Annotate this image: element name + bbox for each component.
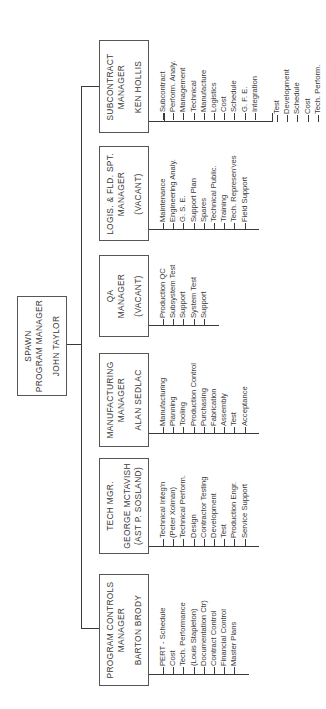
duty-item: Perform. Analy.	[168, 61, 178, 112]
dept-title-2: MANAGER	[116, 153, 127, 235]
duty-item: Cost	[219, 61, 229, 112]
duty-item: Logistics	[209, 61, 219, 112]
duty-tick	[194, 667, 195, 674]
duty-tick	[204, 539, 205, 546]
duty-item: G. S. E.	[178, 156, 188, 222]
duty-item: Test	[229, 363, 239, 426]
duty-item: Technical Perform.	[178, 475, 188, 538]
qa-label: QA MANAGER (VACANT)	[105, 274, 144, 318]
program-controls-duty-list: PERT - Schedule Cost Tech. Performance (…	[158, 600, 240, 666]
duty-item: Service Support	[240, 475, 250, 538]
program-manager-label: SPAWN PROGRAM MANAGER JOHN TAYLOR	[23, 300, 62, 392]
duty-tick	[183, 319, 184, 326]
duty-tick	[224, 113, 225, 120]
duty-tick	[163, 113, 164, 120]
duty-item: Tech. Performance	[178, 600, 188, 666]
duty-tick	[287, 115, 288, 122]
subcontract-duty-list-2: Test Development Schedule Cost Tech. Per…	[272, 65, 323, 114]
duty-item: (Louis Stapleton)	[189, 600, 199, 666]
dept-title: PROGRAM CONTROLS	[105, 582, 116, 679]
technical-label: TECH MGR. GEORGE MCTAVISH (AST P. SOSLAN…	[105, 463, 144, 549]
duty-item: Planning	[168, 363, 178, 426]
duty-item: Test	[272, 65, 282, 114]
duty-item: Financial Control	[219, 600, 229, 666]
duty-tick	[245, 539, 246, 546]
technical-manager-box: TECH MGR. GEORGE MCTAVISH (AST P. SOSLAN…	[99, 458, 149, 554]
duty-tick	[255, 113, 256, 120]
logistics-manager-box: LOGIS. & FLD. SPT. MANAGER (VACANT)	[99, 146, 149, 241]
subcontract-label: SUBCONTRACT MANAGER KEN HOLLIS	[105, 53, 144, 120]
spine-line	[81, 86, 82, 629]
duty-tick	[163, 667, 164, 674]
duty-item: Management	[178, 61, 188, 112]
duty-tick	[224, 539, 225, 546]
program-manager-title: PROGRAM MANAGER	[34, 300, 45, 392]
program-name: SPAWN	[23, 300, 34, 392]
dept-title: SUBCONTRACT	[105, 53, 116, 120]
duty-tick	[224, 427, 225, 434]
dept-title: TECH MGR.	[105, 463, 116, 549]
duty-item: Documentation Ctr)	[199, 600, 209, 666]
duty-item: Technical Integ'n	[158, 475, 168, 538]
duty-tick	[173, 667, 174, 674]
duty-item: Support	[199, 265, 209, 318]
connector-program-manager	[66, 344, 82, 345]
duty-item: Contract Control	[209, 600, 219, 666]
duty-item: Development	[209, 475, 219, 538]
duty-tick	[173, 113, 174, 120]
duty-tick	[183, 539, 184, 546]
dept-title: MANUFACTURING	[105, 362, 116, 439]
duty-item: Schedule	[229, 61, 239, 112]
duty-tick	[173, 319, 174, 326]
duty-tick	[173, 223, 174, 230]
connector-subcontract	[81, 86, 99, 87]
duty-tick	[214, 539, 215, 546]
duty-item: Development	[282, 65, 292, 114]
manufacturing-manager-box: MANUFACTURING MANAGER ALAN SEDLAC	[99, 353, 149, 447]
duty-item: Subcontract	[158, 61, 168, 112]
logistics-label: LOGIS. & FLD. SPT. MANAGER (VACANT)	[105, 153, 144, 235]
duty-tick	[204, 113, 205, 120]
duty-tick	[234, 113, 235, 120]
duty-item: Tech. Perform.	[313, 65, 323, 114]
duty-tick	[204, 223, 205, 230]
subcontract-duty-list: Subcontract Perform. Analy. Management T…	[158, 61, 260, 112]
duty-item: Schedule	[292, 65, 302, 114]
duty-tick	[308, 115, 309, 122]
duty-tick	[183, 427, 184, 434]
duty-tick	[272, 113, 273, 121]
duty-item: Acceptance	[240, 363, 250, 426]
duty-tick	[204, 319, 205, 326]
dept-title-2: MANAGER	[116, 362, 127, 439]
duty-item: Production QC	[158, 265, 168, 318]
duty-bracket-line	[149, 121, 273, 122]
duty-tick	[234, 427, 235, 434]
duty-tick	[194, 427, 195, 434]
duty-tick	[163, 539, 164, 546]
qa-manager-box: QA MANAGER (VACANT)	[99, 255, 149, 337]
duty-item: Maintenance	[158, 156, 168, 222]
dept-title-2: MANAGER	[116, 582, 127, 679]
duty-item: Production Engr.	[229, 475, 239, 538]
duty-bracket-line	[149, 674, 249, 675]
duty-tick	[163, 427, 164, 434]
duty-item: Support Plan	[189, 156, 199, 222]
connector-program-controls	[81, 628, 99, 629]
duty-tick	[234, 223, 235, 230]
dept-manager-name: BARTON BRODY	[133, 582, 144, 679]
duty-tick	[164, 113, 165, 121]
duty-tick	[277, 115, 278, 122]
duty-tick	[194, 319, 195, 326]
duty-item: (Peter Xolman)	[168, 475, 178, 538]
duty-tick	[245, 113, 246, 120]
duty-tick	[214, 113, 215, 120]
duty-tick	[183, 223, 184, 230]
technical-duty-list: Technical Integ'n (Peter Xolman) Technic…	[158, 475, 250, 538]
duty-tick	[214, 667, 215, 674]
duty-tick	[245, 223, 246, 230]
dept-manager-name: KEN HOLLIS	[133, 53, 144, 120]
duty-item: Tech. Represen'ves	[229, 156, 239, 222]
duty-item: Cost	[168, 600, 178, 666]
duty-tick	[194, 539, 195, 546]
program-manager-box: SPAWN PROGRAM MANAGER JOHN TAYLOR	[17, 296, 67, 396]
